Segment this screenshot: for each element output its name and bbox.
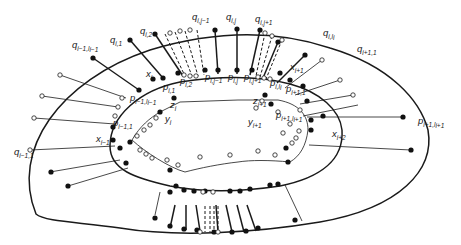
vertex-label: zi xyxy=(169,99,177,112)
filled-vertex-icon xyxy=(408,147,413,152)
open-vertex-icon xyxy=(211,190,215,194)
open-vertex-icon xyxy=(270,34,274,38)
thick-edge xyxy=(226,205,232,232)
thin-edge xyxy=(50,160,120,172)
open-vertex-icon xyxy=(176,163,180,167)
filled-vertex-icon xyxy=(152,31,157,36)
filled-vertex-icon xyxy=(181,226,186,231)
filled-vertex-icon xyxy=(283,145,288,150)
filled-vertex-icon xyxy=(160,75,165,80)
open-vertex-icon xyxy=(40,94,44,98)
filled-vertex-icon xyxy=(90,55,95,60)
open-vertex-icon xyxy=(256,149,260,153)
filled-vertex-icon xyxy=(287,77,292,82)
filled-vertex-icon xyxy=(257,27,262,32)
filled-vertex-icon xyxy=(173,183,178,188)
open-vertex-icon xyxy=(194,74,198,78)
dashed-spokes xyxy=(165,30,282,232)
filled-vertex-icon xyxy=(320,113,325,118)
open-vertex-icon xyxy=(188,74,192,78)
filled-vertex-icon xyxy=(234,67,239,72)
thick-edge xyxy=(263,42,278,78)
open-vertex-icon xyxy=(290,141,294,145)
filled-vertex-icon xyxy=(110,137,115,142)
thick-edge xyxy=(155,34,183,76)
filled-vertex-icon xyxy=(292,217,297,222)
open-vertex-icon xyxy=(135,134,139,138)
thin-spokes xyxy=(30,60,411,221)
filled-vertex-icon xyxy=(237,188,242,193)
open-vertex-icon xyxy=(288,122,292,126)
vertex-label: qi,j xyxy=(226,11,237,25)
open-vertex-icon xyxy=(298,108,302,112)
open-vertex-icon xyxy=(273,153,277,157)
open-vertex-icon xyxy=(280,38,284,42)
filled-vertex-icon xyxy=(229,229,234,234)
vertex-label: qi,2 xyxy=(140,25,153,38)
filled-vertex-icon xyxy=(234,26,239,31)
filled-vertex-icon xyxy=(277,70,282,75)
open-vertex-icon xyxy=(142,128,146,132)
outer-cycle xyxy=(29,35,429,233)
open-vertex-icon xyxy=(120,96,124,100)
filled-vertex-icon xyxy=(308,117,313,122)
vertex-label: pi+1,li+1 xyxy=(417,115,445,129)
filled-vertex-icon xyxy=(215,67,220,72)
open-vertex-icon xyxy=(262,76,266,80)
open-vertex-icon xyxy=(281,131,285,135)
thin-edge xyxy=(30,146,115,150)
filled-vertex-icon xyxy=(247,186,252,191)
open-vertex-icon xyxy=(297,129,301,133)
filled-vertex-icon xyxy=(181,187,186,192)
filled-vertex-icon xyxy=(267,182,272,187)
filled-vertex-icon xyxy=(191,188,196,193)
filled-vertex-icon xyxy=(255,225,260,230)
filled-vertex-icon xyxy=(268,101,273,106)
open-vertex-icon xyxy=(198,230,202,234)
vertex-labels: qi−1,li−1qi,1qi,2qi,j−1qi,jqi,j+1qi,liqi… xyxy=(14,11,445,159)
open-vertex-icon xyxy=(198,155,202,159)
open-vertices xyxy=(28,28,355,234)
open-vertex-icon xyxy=(150,156,154,160)
filled-vertex-icon xyxy=(243,228,248,233)
open-vertex-icon xyxy=(148,123,152,127)
annulus-graph-diagram: qi−1,li−1qi,1qi,2qi,j−1qi,jqi,j+1qi,liqi… xyxy=(0,0,461,245)
filled-vertices xyxy=(48,26,413,234)
filled-vertex-icon xyxy=(212,27,217,32)
vertex-label: xi xyxy=(145,68,153,81)
thin-edge xyxy=(285,185,302,221)
filled-vertex-icon xyxy=(157,109,162,114)
filled-vertex-icon xyxy=(308,127,313,132)
open-vertex-icon xyxy=(178,29,182,33)
open-vertex-icon xyxy=(116,105,120,109)
filled-vertex-icon xyxy=(167,167,172,172)
open-vertex-icon xyxy=(32,116,36,120)
filled-vertex-icon xyxy=(65,183,70,188)
vertex-label: xi−1 xyxy=(95,133,110,146)
filled-vertex-icon xyxy=(262,92,267,97)
vertex-label: qi,j+1 xyxy=(255,13,273,27)
dashed-edge xyxy=(185,31,198,76)
vertex-label: pi,j−1 xyxy=(204,71,223,85)
thick-edge xyxy=(196,205,200,231)
open-vertex-icon xyxy=(188,28,192,32)
filled-vertex-icon xyxy=(127,37,132,42)
open-vertex-icon xyxy=(138,148,142,152)
vertex-label: qi,j−1 xyxy=(192,11,210,25)
open-vertex-icon xyxy=(144,152,148,156)
vertex-label: qi−1,li−1 xyxy=(72,39,99,53)
open-vertex-icon xyxy=(154,116,158,120)
vertex-label: pi,j+1 xyxy=(243,71,262,85)
vertex-label: qi,1 xyxy=(110,34,123,47)
filled-vertex-icon xyxy=(285,159,290,164)
vertex-label: xi+2 xyxy=(331,128,346,141)
filled-vertex-icon xyxy=(48,169,53,174)
filled-vertex-icon xyxy=(167,223,172,228)
thin-edge xyxy=(68,168,128,186)
filled-vertex-icon xyxy=(167,189,172,194)
open-vertex-icon xyxy=(216,230,220,234)
dashed-edge xyxy=(175,32,192,76)
open-vertex-icon xyxy=(228,153,232,157)
open-vertex-icon xyxy=(351,93,355,97)
filled-vertex-icon xyxy=(127,139,132,144)
